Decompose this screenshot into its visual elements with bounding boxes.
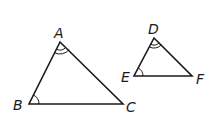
vertex-label-f: F (196, 71, 205, 87)
vertex-label-c: C (126, 99, 136, 115)
angle-e-arc (138, 68, 143, 76)
angle-b-arc (34, 95, 40, 104)
vertex-label-e: E (121, 69, 130, 85)
triangle-abc: A B C (13, 25, 136, 115)
vertex-label-d: D (148, 21, 159, 37)
triangle-def: D E F (121, 21, 205, 87)
similar-triangles-diagram: A B C D E F (0, 0, 218, 119)
vertex-label-a: A (53, 25, 64, 41)
vertex-label-b: B (13, 97, 23, 113)
